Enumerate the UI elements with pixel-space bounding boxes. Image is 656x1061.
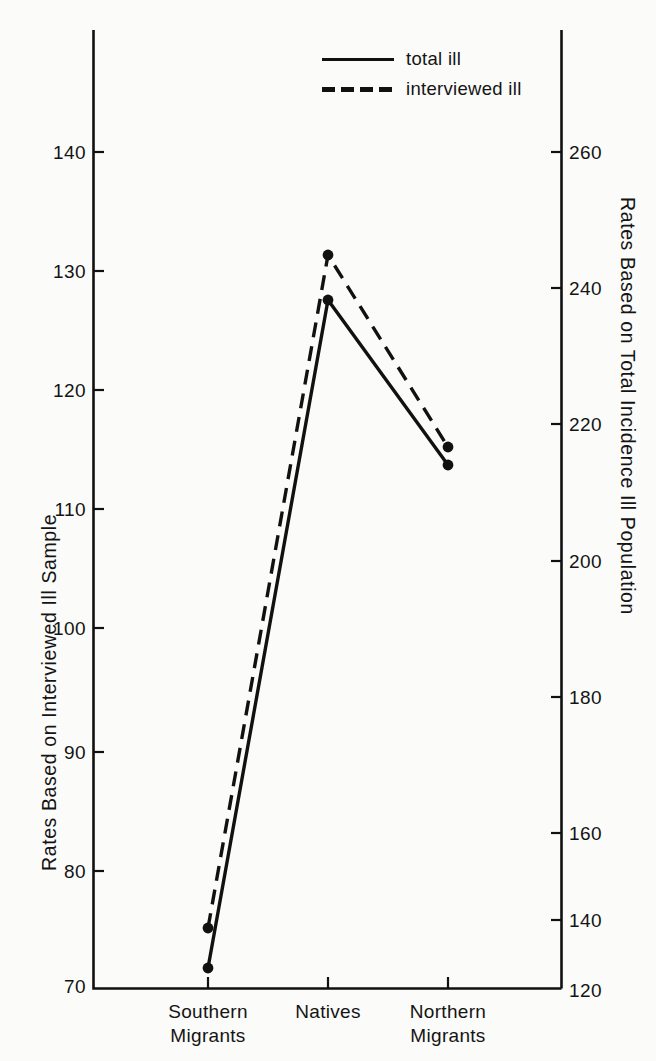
legend-label-interviewed-ill: interviewed ill [406, 78, 522, 100]
data-point-total-natives [323, 295, 334, 306]
legend: total ill interviewed ill [322, 44, 552, 104]
right-tick-label-180: 180 [569, 688, 602, 707]
data-point-interviewed-southern [203, 923, 214, 934]
data-point-markers [203, 250, 454, 974]
legend-label-total-ill: total ill [406, 48, 461, 70]
left-tick-label-140: 140 [10, 143, 86, 162]
data-point-interviewed-northern [443, 442, 454, 453]
legend-solid-line-icon [322, 53, 394, 65]
line-chart: 140 130 120 110 100 90 80 70 260 240 220… [0, 0, 656, 1061]
right-tick-label-260: 260 [569, 143, 602, 162]
left-tick-label-120: 120 [10, 381, 86, 400]
category-ticks [208, 977, 448, 989]
right-tick-label-120: 120 [569, 981, 602, 1000]
left-axis-spine [94, 30, 562, 989]
plot-area [0, 0, 656, 1061]
left-tick-label-130: 130 [10, 262, 86, 281]
right-tick-label-200: 200 [569, 552, 602, 571]
x-category-label-natives: Natives [295, 1000, 360, 1024]
right-tick-label-160: 160 [569, 824, 602, 843]
right-tick-label-240: 240 [569, 279, 602, 298]
series-line-interviewed-ill [208, 255, 448, 928]
data-point-total-northern [443, 460, 454, 471]
x-category-label-southern-migrants: Southern Migrants [168, 1000, 248, 1048]
data-point-total-southern [203, 963, 214, 974]
right-tick-label-220: 220 [569, 415, 602, 434]
legend-item-total-ill: total ill [322, 44, 552, 74]
right-axis-ticks [551, 152, 562, 920]
legend-item-interviewed-ill: interviewed ill [322, 74, 552, 104]
x-category-label-northern-migrants: Northern Migrants [410, 1000, 486, 1048]
y-axis-title-right: Rates Based on Total Incidence Ill Popul… [616, 197, 639, 615]
left-axis-ticks [94, 152, 105, 871]
left-tick-label-70: 70 [10, 977, 86, 996]
legend-dashed-line-icon [322, 83, 394, 95]
data-point-interviewed-natives [323, 250, 334, 261]
right-tick-label-140: 140 [569, 911, 602, 930]
y-axis-title-left: Rates Based on Interviewed Ill Sample [38, 514, 61, 871]
series-line-total-ill [208, 300, 448, 968]
